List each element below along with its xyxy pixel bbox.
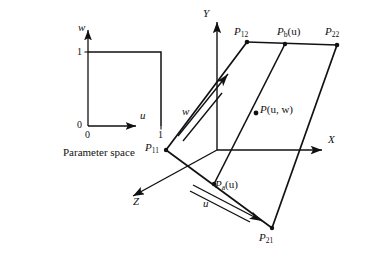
label-p21-base: P [259,231,266,243]
bilinear-patch-outline [166,42,337,228]
param-u-label: u [203,198,209,209]
parameter-space-tick-label-origin-u: 0 [85,129,90,140]
vertex-p-dot [254,111,259,116]
label-p22: P22 [325,26,339,37]
patch-edge-p12-p22 [247,42,337,45]
parameter-space-w-axis-label: w [78,22,85,33]
label-pb-argument: (u) [287,25,300,37]
label-p21-subscript: 21 [266,236,274,245]
label-p11-base: P [145,141,152,153]
bilinear-patch-figure [0,0,370,255]
label-p21: P21 [259,232,273,243]
axis-y-label: Y [203,8,209,19]
label-p11: P11 [145,142,159,153]
label-pa-base: P [215,178,222,190]
axis-x-label: X [328,134,335,145]
param-w-label: w [182,106,189,117]
axis-z-label: Z [133,196,139,207]
label-p-argument: (u, w) [267,103,293,115]
patch-edge-p11-p12 [166,42,247,150]
label-p-base: P [260,103,267,115]
label-pa-u: Pa(u) [215,179,238,190]
parameter-space-tick-label-u-one: 1 [158,129,163,140]
label-pa-argument: (u) [225,178,238,190]
label-pb-subscript: b [284,30,288,39]
patch-corner-dots [164,40,340,231]
parameter-space-group [85,30,162,130]
label-p12: P12 [234,26,248,37]
label-p22-subscript: 22 [332,30,340,39]
vertex-pb-dot [283,42,287,46]
vertex-p11-dot [164,148,168,152]
param-u-arrow [190,185,262,222]
vertex-p22-dot [335,43,340,48]
vertex-p12-dot [245,40,250,45]
param-u-arrow-line-2 [190,191,250,222]
vertex-p21-dot [270,226,274,230]
label-p12-base: P [234,25,241,37]
parameter-space-tick-label-w-one: 1 [77,46,82,57]
label-pa-subscript: a [222,183,225,192]
label-p-u-w: P(u, w) [260,104,293,115]
parameter-space-caption: Parameter space [63,146,135,158]
label-p12-subscript: 12 [241,30,249,39]
parameter-space-tick-label-origin-w: 0 [77,119,82,130]
parameter-space-unit-square [88,52,161,126]
label-pb-u: Pb(u) [277,26,300,37]
label-p11-subscript: 11 [152,146,159,155]
label-p22-base: P [325,25,332,37]
parameter-space-u-axis-label: u [140,110,146,121]
label-pb-base: P [277,25,284,37]
